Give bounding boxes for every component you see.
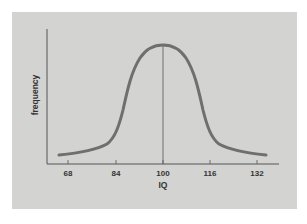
bell-curve-chart: 68 84 100 116 132 IQ frequency	[0, 0, 307, 224]
y-axis-label: frequency	[30, 74, 40, 115]
tick-label-116: 116	[204, 169, 217, 178]
tick-label-132: 132	[250, 169, 264, 178]
x-axis-label: IQ	[159, 180, 168, 190]
tick-label-68: 68	[64, 169, 73, 178]
tick-label-84: 84	[112, 169, 121, 178]
bell-curve	[59, 45, 266, 155]
x-ticks	[68, 160, 257, 164]
tick-label-100: 100	[156, 169, 170, 178]
